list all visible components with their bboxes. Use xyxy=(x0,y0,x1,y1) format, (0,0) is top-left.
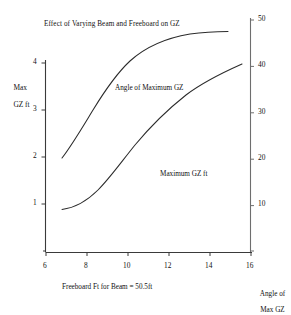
left-tick-label-4: 4 xyxy=(33,58,37,66)
x-axis-title: Freeboard Ft for Beam = 50.5ft xyxy=(62,283,152,291)
chart-title: Effect of Varying Beam and Freeboard on … xyxy=(44,20,180,28)
left-axis-title-line1: Max xyxy=(13,83,27,92)
left-tick-label-3: 3 xyxy=(33,105,37,113)
right-tick-label-20: 20 xyxy=(258,154,265,162)
chart-figure: Effect of Varying Beam and Freeboard on … xyxy=(0,0,291,315)
right-axis-title: Angle of Max GZ xyxy=(253,282,285,315)
x-tick-label-6: 6 xyxy=(43,262,47,270)
series-label-angle-of-maximum-gz: Angle of Maximum GZ xyxy=(115,84,183,92)
x-tick-label-12: 12 xyxy=(164,262,171,270)
left-axis-ticks xyxy=(42,63,46,251)
left-tick-label-2: 2 xyxy=(33,152,37,160)
left-tick-label-1: 1 xyxy=(33,199,37,207)
right-tick-label-40: 40 xyxy=(258,61,265,69)
right-axis-title-line2: Max GZ xyxy=(260,306,285,314)
series-angle-of-maximum-gz xyxy=(62,32,228,158)
left-axis-title: Max GZ ft xyxy=(6,76,30,117)
right-axis-title-line1: Angle of xyxy=(260,290,285,298)
right-tick-label-30: 30 xyxy=(258,108,265,116)
x-tick-label-16: 16 xyxy=(246,262,253,270)
x-tick-label-8: 8 xyxy=(84,262,88,270)
left-axis-title-line2: GZ ft xyxy=(13,100,29,109)
right-tick-label-50: 50 xyxy=(258,15,265,23)
x-tick-label-10: 10 xyxy=(123,262,130,270)
series-label-maximum-gz-ft: Maximum GZ ft xyxy=(160,170,208,178)
right-tick-label-10: 10 xyxy=(258,200,265,208)
x-tick-label-14: 14 xyxy=(205,262,212,270)
